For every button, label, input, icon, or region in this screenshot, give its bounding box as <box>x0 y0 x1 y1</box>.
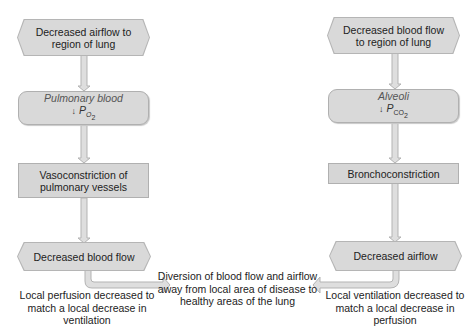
right-state-node: Alveoli ↓ PCO2 <box>328 89 459 123</box>
right-result-node: Decreased airflow <box>330 242 461 270</box>
left-result-node: Decreased blood flow <box>18 243 150 270</box>
left-caption: Local perfusion decreased to match a loc… <box>18 289 156 327</box>
center-caption: Diversion of blood flow and airflow away… <box>155 270 320 308</box>
down-arrow-icon: ↓ <box>379 104 384 114</box>
right-response-label: Bronchoconstriction <box>347 168 439 180</box>
right-start-label: Decreased blood flow to region of lung <box>328 24 459 48</box>
left-response-node: Vasoconstriction of pulmonary vessels <box>18 163 149 198</box>
right-state-value: ↓ PCO2 <box>379 102 408 122</box>
left-state-value: ↓ PO2 <box>72 104 96 124</box>
gas-subscript: 2 <box>91 114 95 121</box>
left-state-label: Pulmonary blood <box>44 92 123 104</box>
right-state-label: Alveoli <box>378 90 409 102</box>
down-arrow-icon: ↓ <box>72 106 77 116</box>
partial-pressure-symbol: P <box>79 104 86 116</box>
left-start-node: Decreased airflow to region of lung <box>18 20 149 55</box>
left-state-node: Pulmonary blood ↓ PO2 <box>18 91 149 125</box>
gas-subscript: 2 <box>404 112 408 119</box>
right-result-label: Decreased airflow <box>353 250 437 262</box>
right-caption: Local ventilation decreased to match a l… <box>320 289 470 327</box>
left-result-label: Decreased blood flow <box>34 251 135 263</box>
right-start-node: Decreased blood flow to region of lung <box>328 18 459 53</box>
left-start-label: Decreased airflow to region of lung <box>18 26 149 50</box>
partial-pressure-symbol: P <box>387 102 394 114</box>
right-response-node: Bronchoconstriction <box>328 163 459 184</box>
gas-label: CO <box>394 109 405 116</box>
left-response-label: Vasoconstriction of pulmonary vessels <box>19 169 148 193</box>
